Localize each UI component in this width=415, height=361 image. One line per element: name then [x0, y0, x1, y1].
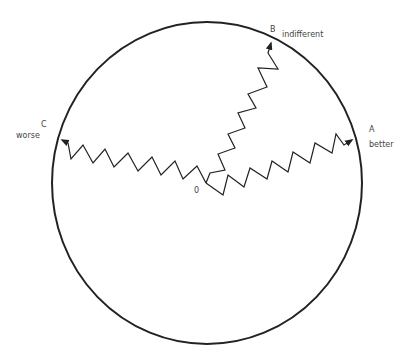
path-to-a	[206, 134, 352, 195]
diagram-canvas: 0 A better B indifferent C worse	[0, 0, 415, 361]
endpoint-b-letter: B	[270, 25, 276, 34]
endpoint-b-caption: indifferent	[282, 30, 323, 39]
endpoint-a-letter: A	[369, 125, 375, 134]
path-to-c	[62, 140, 206, 183]
path-to-b	[206, 43, 278, 183]
endpoint-c-caption: worse	[16, 131, 40, 140]
origin-label: 0	[194, 186, 199, 195]
endpoint-c-letter: C	[41, 120, 47, 129]
endpoint-a-caption: better	[369, 140, 394, 149]
